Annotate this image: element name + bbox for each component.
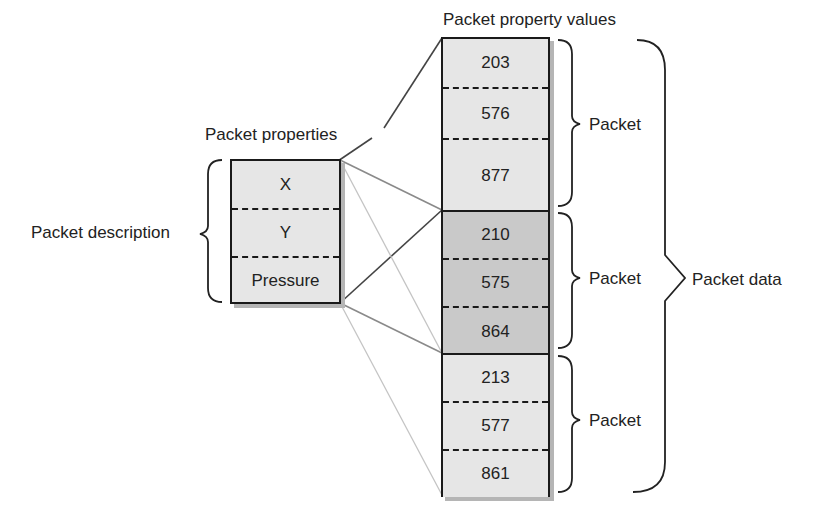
properties-callout-line [338,138,372,161]
property-x: X [232,161,339,208]
description-brace-icon [200,160,222,302]
packet2-value-pressure: 864 [443,306,548,355]
packet3-value-y: 577 [443,401,548,449]
packet-description-box: X Y Pressure [230,159,341,304]
packet1-value-y: 576 [443,87,548,138]
connector-packet3-bottom [340,303,442,495]
connector-packet3-top [340,160,442,353]
packet1-label: Packet [589,116,641,133]
packet1-value-pressure: 877 [443,138,548,211]
packet3-value-x: 213 [443,353,548,401]
packet-values-column: 203 576 877 210 575 864 213 577 861 [441,37,550,497]
connector-packet2-top [340,160,442,210]
packet3-value-pressure: 861 [443,449,548,497]
packet1-brace-icon [558,40,580,206]
connector-packet2-bottom [340,303,442,353]
property-pressure: Pressure [232,256,339,304]
description-label: Packet description [31,224,170,241]
packet-data-label: Packet data [692,271,782,288]
packet3-brace-icon [558,356,580,492]
property-y: Y [232,208,339,256]
packet2-brace-icon [558,213,580,348]
properties-title: Packet properties [205,126,337,143]
packet2-value-y: 575 [443,258,548,306]
packet1-value-x: 203 [443,39,548,87]
packet3-label: Packet [589,412,641,429]
values-title: Packet property values [443,11,616,28]
packet2-label: Packet [589,270,641,287]
packet2-value-x: 210 [443,210,548,258]
connector-packet1-top [384,38,442,128]
connector-lines [0,0,834,521]
